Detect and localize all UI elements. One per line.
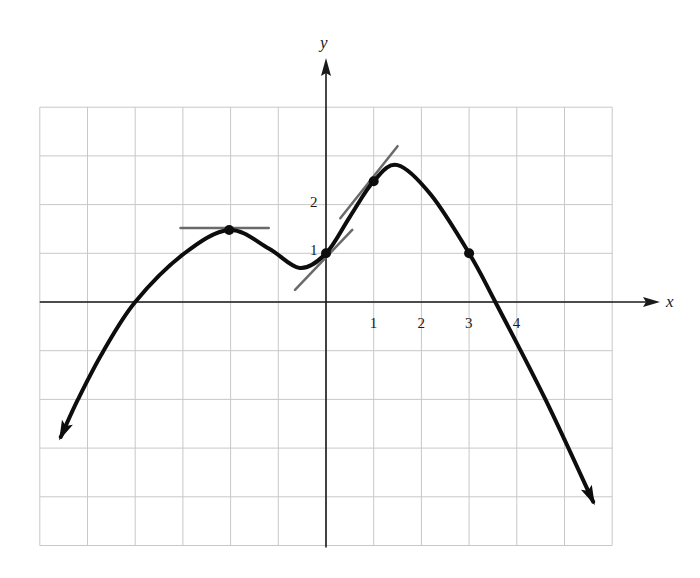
x-axis-label: x [665, 292, 674, 311]
marked-point [321, 248, 331, 258]
x-tick-label: 3 [465, 315, 473, 331]
marked-point [464, 248, 474, 258]
x-tick-label: 2 [417, 315, 425, 331]
tangent-lines [181, 146, 398, 290]
x-tick-label: 4 [513, 315, 521, 331]
x-tick-label: 1 [370, 315, 378, 331]
tangent-line [295, 230, 352, 290]
y-tick-label: 1 [310, 242, 318, 258]
tick-labels: 123412 [310, 194, 521, 331]
function-curve [61, 165, 593, 502]
function-graph: x y 123412 [0, 0, 700, 578]
marked-point [224, 225, 234, 235]
y-axis-label: y [318, 33, 328, 52]
marked-point [369, 176, 379, 186]
y-tick-label: 2 [310, 194, 318, 210]
curve-group [59, 165, 595, 505]
